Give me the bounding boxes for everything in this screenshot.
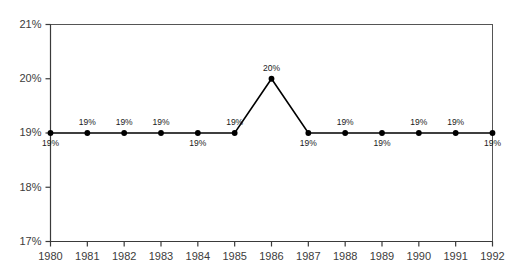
data-point-1988: [342, 130, 348, 136]
x-tick-label: 1980: [38, 250, 62, 262]
point-label-1986: 20%: [263, 63, 280, 73]
data-point-1981: [84, 130, 90, 136]
x-tick-label: 1989: [370, 250, 394, 262]
data-point-1985: [232, 130, 238, 136]
data-point-1991: [453, 130, 459, 136]
point-label-1981: 19%: [79, 117, 96, 127]
point-label-1987: 19%: [300, 138, 317, 148]
x-tick-label: 1988: [333, 250, 357, 262]
point-label-1991: 19%: [447, 117, 464, 127]
x-tick-label: 1986: [259, 250, 283, 262]
point-label-1980: 19%: [42, 138, 59, 148]
data-point-1990: [416, 130, 422, 136]
x-tick-label: 1982: [112, 250, 136, 262]
y-tick-label: 19%: [19, 126, 41, 138]
data-point-1989: [379, 130, 385, 136]
point-label-1984: 19%: [189, 138, 206, 148]
data-point-1987: [305, 130, 311, 136]
x-tick-label: 1987: [296, 250, 320, 262]
data-point-1982: [121, 130, 127, 136]
y-tick-label: 17%: [19, 235, 41, 247]
x-tick-label: 1990: [407, 250, 431, 262]
x-tick-label: 1992: [480, 250, 504, 262]
point-label-1983: 19%: [152, 117, 169, 127]
x-tick-label: 1985: [222, 250, 246, 262]
x-tick-label: 1981: [75, 250, 99, 262]
x-tick-label: 1991: [443, 250, 467, 262]
point-label-1985: 19%: [226, 117, 243, 127]
data-point-1983: [158, 130, 164, 136]
point-label-1992: 19%: [484, 138, 501, 148]
data-point-1992: [490, 130, 496, 136]
line-chart: 17%18%19%20%21% 198019811982198319841985…: [0, 0, 510, 275]
chart-background: [0, 0, 510, 275]
data-point-1980: [48, 130, 54, 136]
chart-canvas: 17%18%19%20%21% 198019811982198319841985…: [0, 0, 510, 275]
point-label-1988: 19%: [337, 117, 354, 127]
point-label-1982: 19%: [116, 117, 133, 127]
y-tick-label: 21%: [19, 18, 41, 30]
point-label-1990: 19%: [410, 117, 427, 127]
point-label-1989: 19%: [373, 138, 390, 148]
data-point-1986: [269, 76, 275, 82]
x-tick-label: 1983: [149, 250, 173, 262]
y-tick-label: 20%: [19, 72, 41, 84]
y-tick-label: 18%: [19, 181, 41, 193]
data-point-1984: [195, 130, 201, 136]
x-tick-label: 1984: [186, 250, 210, 262]
